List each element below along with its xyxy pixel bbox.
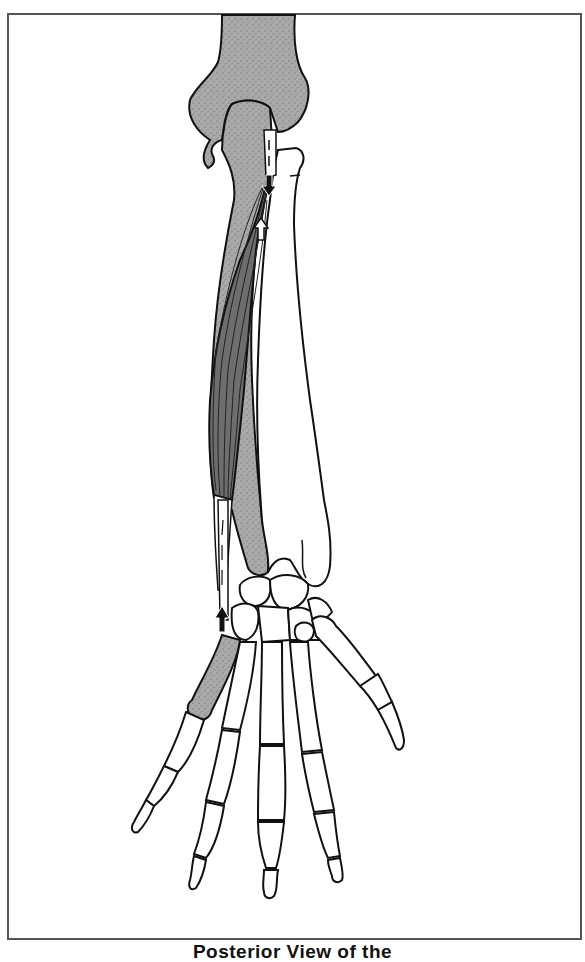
radius <box>257 148 330 586</box>
little-finger <box>312 616 404 749</box>
origin-tendon <box>264 130 276 178</box>
insertion-tendon <box>218 500 228 620</box>
figure-caption: Posterior View of the <box>0 941 585 962</box>
middle-finger <box>258 642 286 898</box>
thumb-phalanges <box>132 712 204 832</box>
ring-finger <box>290 642 343 882</box>
